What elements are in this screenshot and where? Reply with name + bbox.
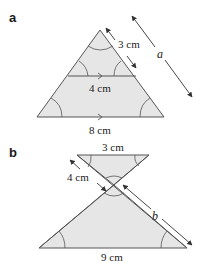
similar-triangles-diagram: a 3 cm a 4 cm 8 cm b 3	[0, 0, 205, 269]
measure-4cm-b: 4 cm	[67, 171, 89, 183]
part-a-triangle	[37, 30, 164, 120]
part-b-triangles	[39, 155, 187, 248]
dimension-arrow-icon	[127, 56, 136, 68]
dimension-arrow-icon	[165, 60, 192, 97]
measure-4cm-a: 4 cm	[89, 82, 111, 94]
dimension-arrow-icon	[97, 183, 106, 191]
dimension-arrow-icon	[70, 160, 80, 169]
measure-9cm-b: 9 cm	[101, 251, 123, 263]
part-a-label: a	[9, 10, 17, 25]
variable-a: a	[157, 47, 163, 61]
variable-b: b	[152, 209, 158, 223]
measure-3cm-a: 3 cm	[118, 38, 140, 50]
measure-3cm-b: 3 cm	[102, 141, 124, 153]
measure-8cm-a: 8 cm	[89, 124, 111, 136]
dimension-arrow-icon	[106, 28, 115, 40]
part-b-label: b	[9, 145, 17, 160]
